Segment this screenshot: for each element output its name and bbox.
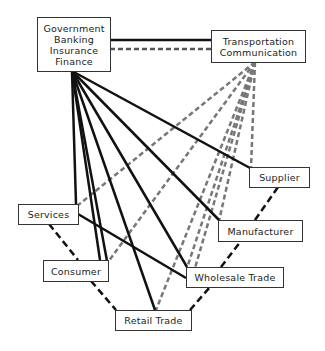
node-wholesale-label: Wholesale Trade — [195, 272, 276, 283]
node-services-label: Services — [28, 209, 70, 220]
edge-wholesale-manufacturer — [221, 241, 241, 267]
node-manufacturer-label: Manufacturer — [227, 226, 293, 237]
node-retail-label: Retail Trade — [124, 315, 182, 326]
node-government-line-1: Government — [43, 23, 104, 34]
node-government: Government Banking Insurance Finance — [37, 17, 111, 72]
edge-gov-supplier — [72, 71, 250, 168]
node-manufacturer: Manufacturer — [218, 220, 303, 242]
node-government-line-4: Finance — [55, 56, 93, 67]
node-transportation-line-2: Communication — [220, 47, 297, 58]
edge-trans-services — [77, 62, 255, 206]
edge-retail-wholesale — [190, 287, 210, 310]
node-supplier-label: Supplier — [259, 172, 300, 183]
node-services: Services — [18, 204, 79, 225]
node-supplier: Supplier — [249, 167, 310, 188]
edge-trans-manufacturer — [219, 62, 255, 221]
edge-manufacturer-supplier — [255, 187, 278, 220]
node-transportation-line-1: Transportation — [223, 36, 294, 47]
node-government-line-3: Insurance — [50, 45, 98, 56]
node-consumer: Consumer — [43, 260, 109, 282]
node-transportation: Transportation Communication — [211, 30, 306, 63]
node-wholesale: Wholesale Trade — [186, 267, 284, 288]
node-retail: Retail Trade — [115, 310, 192, 331]
edge-services-consumer — [49, 224, 78, 260]
node-consumer-label: Consumer — [51, 266, 101, 277]
edge-consumer-retail — [91, 281, 116, 310]
edge-gov-retail-2 — [72, 71, 100, 260]
node-government-line-2: Banking — [54, 34, 94, 45]
